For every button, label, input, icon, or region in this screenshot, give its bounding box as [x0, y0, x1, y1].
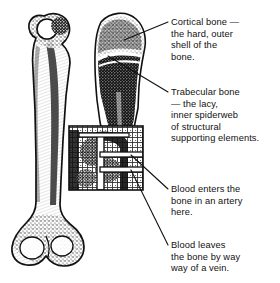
callout-blood-leaves-vein: Blood leaves the bone by way way of a ve… — [171, 240, 280, 275]
callout-trabecular-bone: Trabecular bone — the lacy, inner spider… — [171, 87, 280, 145]
bone-anatomy-figure: Cortical bone — the hard, outer shell of… — [0, 0, 280, 283]
shaft-detail-inset — [69, 126, 143, 190]
callout-blood-enters-artery: Blood enters the bone in an artery here. — [171, 184, 280, 219]
callout-cortical-bone: Cortical bone — the hard, outer shell of… — [171, 17, 280, 63]
